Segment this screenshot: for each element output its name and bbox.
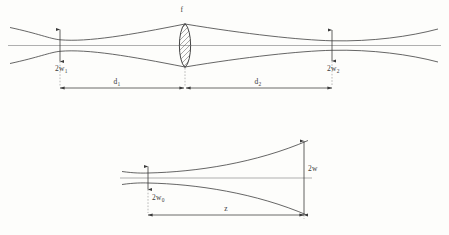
waist2-label: 2w2 [327,64,340,74]
beam-envelope-upper-right [185,24,438,41]
d2-label: d2 [254,77,261,87]
waist1-label: 2w1 [55,64,68,74]
divergence-envelope-upper [122,141,308,174]
top-diagram: f 2w1 2w2 d1 d2 [8,5,441,90]
d1-label: d1 [113,77,120,87]
bottom-diagram: 2w0 2w z [120,141,318,220]
beam-envelope-lower-right [185,50,438,67]
optics-figure: f 2w1 2w2 d1 d2 [0,0,449,235]
beam-envelope-upper-left [10,24,185,40]
z-label: z [224,204,228,213]
waist0-label: 2w0 [152,193,165,203]
beam-envelope-lower-left [10,51,185,67]
lens-focal-label: f [181,5,184,14]
divergence-envelope-lower [122,183,308,216]
spot-label: 2w [308,164,318,173]
